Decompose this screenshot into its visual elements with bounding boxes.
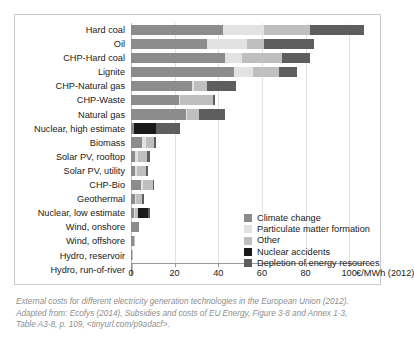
caption-line-1: External costs for different electricity… bbox=[16, 296, 380, 308]
bar-row[interactable] bbox=[131, 108, 371, 122]
bar-segment bbox=[213, 95, 215, 105]
tick-label: 40 bbox=[213, 268, 223, 278]
legend-item[interactable]: Climate change bbox=[244, 213, 380, 224]
legend-swatch-icon bbox=[244, 225, 252, 233]
bar-row[interactable] bbox=[131, 23, 371, 37]
plot-wrapper: Hard coalOilCHP-Hard coalLigniteCHP-Natu… bbox=[15, 15, 380, 284]
stacked-bar[interactable] bbox=[131, 81, 236, 91]
bar-segment bbox=[131, 25, 223, 35]
bar-segment bbox=[146, 166, 149, 176]
stacked-bar[interactable] bbox=[131, 208, 150, 218]
bar-segment bbox=[153, 180, 154, 190]
bar-row[interactable] bbox=[131, 37, 371, 51]
bar-segment bbox=[131, 53, 225, 63]
bar-segment bbox=[131, 180, 141, 190]
category-label: Nuclear, high estimate bbox=[15, 122, 129, 136]
bar-segment bbox=[234, 67, 254, 77]
stacked-bar[interactable] bbox=[131, 151, 150, 161]
bar-row[interactable] bbox=[131, 65, 371, 79]
legend-label: Nuclear accidents bbox=[257, 247, 330, 258]
stacked-bar[interactable] bbox=[131, 194, 144, 204]
category-label: Hard coal bbox=[15, 23, 129, 37]
category-label: CHP-Bio bbox=[15, 178, 129, 192]
stacked-bar[interactable] bbox=[131, 180, 154, 190]
bar-row[interactable] bbox=[131, 178, 371, 192]
stacked-bar[interactable] bbox=[131, 53, 310, 63]
bar-segment bbox=[242, 53, 281, 63]
bar-segment bbox=[207, 81, 235, 91]
legend-swatch-icon bbox=[244, 237, 252, 245]
legend-swatch-icon bbox=[244, 214, 252, 222]
bar-row[interactable] bbox=[131, 192, 371, 206]
bar-segment bbox=[131, 67, 234, 77]
tick-label: 100 bbox=[342, 268, 357, 278]
stacked-bar[interactable] bbox=[131, 222, 139, 232]
legend-swatch-icon bbox=[244, 248, 252, 256]
bar-segment bbox=[138, 208, 149, 218]
bar-segment bbox=[134, 123, 156, 133]
tick-label: 80 bbox=[300, 268, 310, 278]
category-label: Hydro, reservoir bbox=[15, 249, 129, 263]
category-label-column: Hard coalOilCHP-Hard coalLigniteCHP-Natu… bbox=[15, 23, 129, 277]
bar-segment bbox=[131, 109, 186, 119]
bar-row[interactable] bbox=[131, 51, 371, 65]
bar-row[interactable] bbox=[131, 164, 371, 178]
legend-item[interactable]: Particulate matter formation bbox=[244, 224, 380, 235]
category-label: Solar PV, utility bbox=[15, 164, 129, 178]
caption-line-2: Adapted from: Ecofys (2014), Subsidies a… bbox=[16, 308, 380, 320]
stacked-bar[interactable] bbox=[131, 95, 215, 105]
bar-segment bbox=[131, 95, 179, 105]
stacked-bar[interactable] bbox=[131, 236, 135, 246]
chart-panel: Hard coalOilCHP-Hard coalLigniteCHP-Natu… bbox=[14, 14, 381, 285]
bar-segment bbox=[146, 137, 154, 147]
tick-mark bbox=[131, 264, 132, 267]
stacked-bar[interactable] bbox=[131, 250, 133, 260]
stacked-bar[interactable] bbox=[131, 166, 148, 176]
bar-segment bbox=[207, 39, 246, 49]
category-label: Oil bbox=[15, 37, 129, 51]
stacked-bar[interactable] bbox=[131, 67, 297, 77]
category-label: Solar PV, rooftop bbox=[15, 150, 129, 164]
bar-segment bbox=[279, 67, 296, 77]
category-label: CHP-Hard coal bbox=[15, 51, 129, 65]
bar-row[interactable] bbox=[131, 79, 371, 93]
stacked-bar[interactable] bbox=[131, 123, 180, 133]
stacked-bar[interactable] bbox=[131, 25, 364, 35]
tick-mark bbox=[218, 264, 219, 267]
bar-row[interactable] bbox=[131, 136, 371, 150]
bar-segment bbox=[264, 39, 314, 49]
legend-item[interactable]: Depletion of energy resources bbox=[244, 258, 380, 269]
bar-segment bbox=[223, 25, 264, 35]
category-label: CHP-Natural gas bbox=[15, 79, 129, 93]
bar-segment bbox=[194, 81, 207, 91]
bar-segment bbox=[131, 137, 142, 147]
x-axis-unit-label: €/MWh (2012) bbox=[356, 268, 414, 278]
bar-segment bbox=[137, 166, 146, 176]
bar-segment bbox=[131, 39, 207, 49]
bar-segment bbox=[138, 151, 148, 161]
bar-segment bbox=[264, 25, 310, 35]
legend: Climate changeParticulate matter formati… bbox=[244, 213, 380, 269]
category-label: Wind, onshore bbox=[15, 220, 129, 234]
bar-segment bbox=[131, 81, 192, 91]
tick-label: 60 bbox=[257, 268, 267, 278]
legend-item[interactable]: Nuclear accidents bbox=[244, 247, 380, 258]
bar-segment bbox=[148, 208, 150, 218]
tick-mark bbox=[175, 264, 176, 267]
category-label: Hydro, run-of-river bbox=[15, 263, 129, 277]
bar-row[interactable] bbox=[131, 122, 371, 136]
bar-segment bbox=[310, 25, 365, 35]
category-label: Biomass bbox=[15, 136, 129, 150]
bar-segment bbox=[253, 67, 279, 77]
legend-item[interactable]: Other bbox=[244, 235, 380, 246]
stacked-bar[interactable] bbox=[131, 137, 156, 147]
bar-row[interactable] bbox=[131, 93, 371, 107]
bar-segment bbox=[147, 151, 149, 161]
stacked-bar[interactable] bbox=[131, 109, 225, 119]
bar-segment bbox=[187, 109, 199, 119]
legend-label: Particulate matter formation bbox=[257, 224, 370, 235]
stacked-bar[interactable] bbox=[131, 39, 314, 49]
bar-segment bbox=[131, 222, 139, 232]
bar-row[interactable] bbox=[131, 150, 371, 164]
tick-label: 20 bbox=[170, 268, 180, 278]
